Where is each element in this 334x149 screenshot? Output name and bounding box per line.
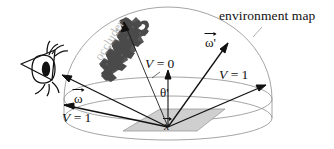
ray-right-horizon-arrowhead (256, 85, 266, 91)
theta-prime-label: θ' (160, 86, 169, 99)
surface-point-label: x (164, 120, 169, 132)
ray-to-eye-arrowhead (62, 75, 72, 82)
omega-prime-vector-label: ω' (205, 36, 216, 49)
visibility-zero-label: V = 0 (145, 57, 174, 71)
visibility-one-left-label: V = 1 (62, 111, 91, 125)
ray-left-horizon-arrowhead (64, 103, 74, 109)
surface-point-vector-arrow (163, 118, 171, 119)
omega-prime-glyph: ω' (205, 36, 216, 49)
omega-vector-label: ω (74, 92, 83, 105)
env-map-leader-line (253, 27, 262, 37)
surface-point-glyph: x (164, 120, 169, 132)
omega-vector-arrow (73, 89, 84, 90)
ray-to-occluder (124, 22, 168, 127)
surface-normal-arrowhead (165, 70, 171, 79)
omega-prime-vector-arrow (204, 33, 215, 34)
eye-pictogram (21, 41, 68, 96)
figure-canvas: environment map V = 0 V = 1 V = 1 θ' ω ω… (0, 0, 334, 149)
visibility-one-right-label: V = 1 (219, 68, 248, 82)
omega-glyph: ω (74, 92, 83, 105)
environment-map-label: environment map (219, 9, 315, 23)
